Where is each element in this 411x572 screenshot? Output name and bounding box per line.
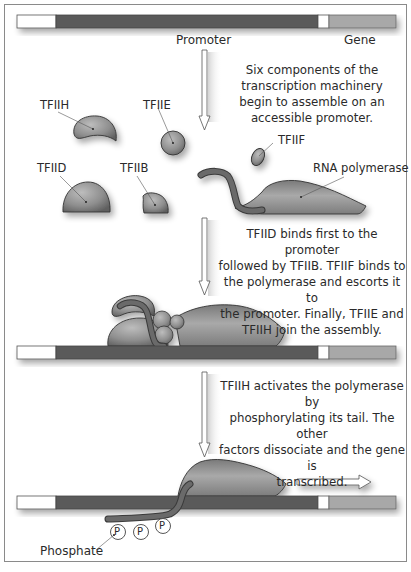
tfiih-label: TFIIH [40, 100, 69, 112]
step-3-caption: TFIIH activates the polymerase by phosph… [218, 378, 406, 490]
phosphate-label: Phosphate [40, 545, 103, 557]
tfiif-shape [249, 146, 267, 167]
tfiib-label: TFIIB [120, 163, 148, 175]
tfiih-shape [74, 116, 117, 141]
step-1-caption: Six components of the transcription mach… [222, 62, 402, 126]
dna-strand-3 [17, 496, 396, 509]
phosphate-symbol: P [114, 527, 120, 537]
tfiid-shape [63, 182, 110, 212]
rna-polymerase-free [201, 171, 366, 214]
tfiib-shape [143, 193, 168, 213]
dna-strand-2 [17, 346, 396, 359]
phosphate-symbol: P [159, 521, 165, 531]
tfiid-label: TFIID [37, 163, 66, 175]
dna-strand-1 [17, 15, 396, 28]
step-2-caption: TFIID binds first to the promoter follow… [218, 226, 406, 338]
rna-polymerase-label: RNA polymerase [313, 163, 409, 175]
gene-label: Gene [344, 34, 376, 46]
down-arrow-1 [199, 50, 222, 130]
promoter-label: Promoter [176, 34, 231, 46]
tfiif-label: TFIIF [278, 135, 305, 147]
phosphate-symbol: P [137, 527, 143, 537]
tfiie-label: TFIIE [143, 100, 171, 112]
